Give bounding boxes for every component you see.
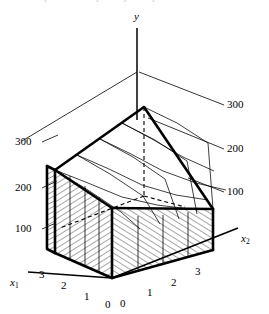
x2-tick-0: 0 (120, 298, 126, 309)
value-label-right-300: 300 (227, 99, 244, 110)
x1-tick-0: 0 (105, 299, 111, 310)
value-label-right-100: 100 (227, 186, 244, 197)
hidden-base-right (144, 196, 185, 207)
value-label-right-200: 200 (227, 143, 244, 154)
x1-axis-label: x1 (10, 277, 19, 289)
x1-tick-3: 3 (39, 269, 45, 280)
surface-plot-canvas (0, 0, 269, 314)
x1-tick-2: 2 (61, 280, 67, 291)
value-label-left-100: 100 (15, 223, 32, 234)
leader-left-300 (42, 135, 58, 142)
x2-tick-3: 3 (195, 266, 201, 277)
x2-tick-1: 1 (147, 287, 153, 298)
leader-upper-left-branch (22, 72, 137, 141)
figure-root: ppjp (0, 0, 269, 314)
x2-tick-2: 2 (171, 277, 177, 288)
x1-tick-1: 1 (84, 291, 90, 302)
y-axis-label: y (134, 11, 139, 22)
x2-axis-label: x2 (241, 233, 250, 245)
leader-right-200 (148, 118, 224, 149)
value-label-left-200: 200 (15, 182, 32, 193)
value-label-left-300: 300 (15, 136, 32, 147)
leader-right-300 (139, 72, 224, 105)
